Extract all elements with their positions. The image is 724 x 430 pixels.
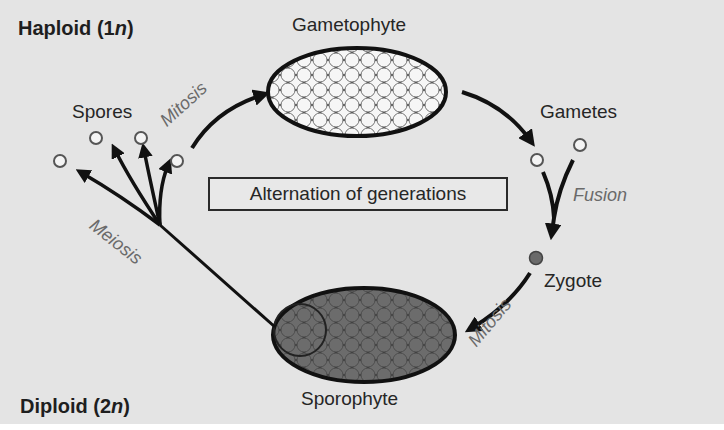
diagram-title: Alternation of generations	[250, 183, 467, 205]
haploid-label: Haploid (1n)	[18, 17, 134, 40]
diploid-label: Diploid (2n)	[20, 395, 130, 418]
sporophyte-ellipse	[273, 288, 455, 382]
sporophyte-label: Sporophyte	[301, 388, 398, 410]
diagram-graphics	[0, 0, 724, 424]
fusion-arrow	[543, 160, 573, 232]
gametophyte-ellipse	[268, 48, 446, 136]
gametes-label: Gametes	[540, 101, 617, 123]
fusion-label: Fusion	[573, 185, 627, 206]
spores-label: Spores	[72, 101, 132, 123]
gamete-cells	[531, 139, 586, 166]
zygote-label: Zygote	[544, 270, 602, 292]
zygote-cell	[530, 252, 543, 265]
gametes-arrow	[462, 92, 530, 140]
mitosis-arrow-top	[192, 95, 262, 148]
gametophyte-label: Gametophyte	[292, 14, 406, 36]
alternation-of-generations-diagram: Haploid (1n) Diploid (2n) Gametophyte Ga…	[0, 0, 724, 424]
spore-cells	[54, 132, 183, 167]
diagram-title-box: Alternation of generations	[208, 177, 508, 211]
